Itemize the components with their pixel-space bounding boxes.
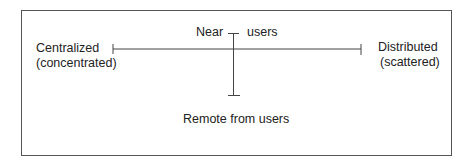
axes-lines: [0, 0, 470, 163]
users-label: users: [247, 25, 278, 40]
distributed-label: Distributed: [378, 40, 438, 55]
remote-from-users-label: Remote from users: [183, 112, 289, 127]
concentrated-label: (concentrated): [36, 56, 117, 71]
scattered-label: (scattered): [380, 55, 440, 70]
centralized-label: Centralized: [36, 41, 99, 56]
near-label: Near: [196, 25, 223, 40]
